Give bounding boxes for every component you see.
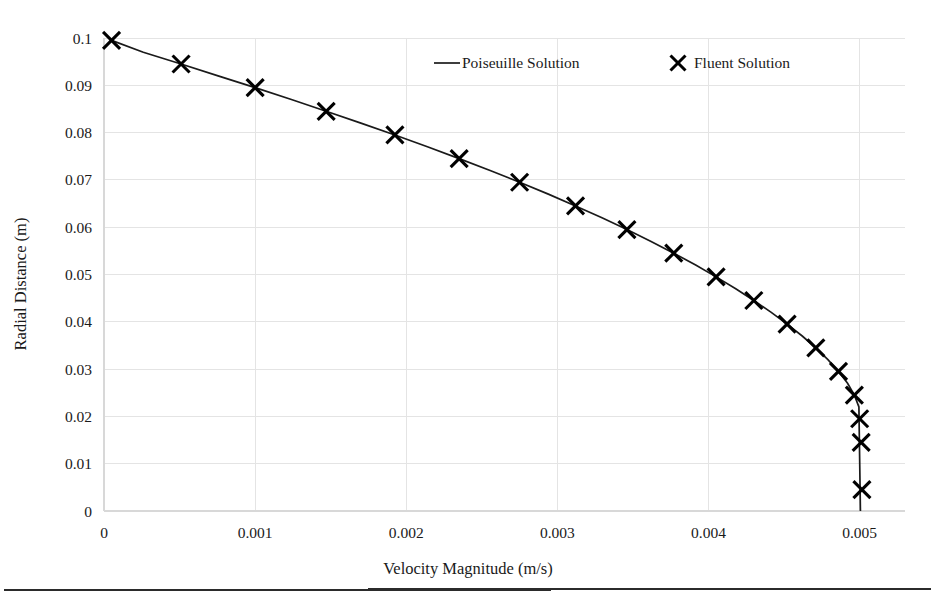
y-tick-label: 0.02	[65, 408, 92, 425]
y-tick-label: 0.08	[65, 124, 92, 141]
y-tick-label: 0.06	[65, 219, 92, 236]
x-tick-label: 0.004	[691, 524, 726, 541]
y-tick-label: 0.04	[65, 313, 92, 330]
x-axis-title: Velocity Magnitude (m/s)	[383, 559, 553, 578]
y-tick-label: 0.05	[65, 266, 92, 283]
x-tick-label: 0.001	[238, 524, 273, 541]
y-tick-label: 0.01	[65, 455, 92, 472]
y-tick-label: 0	[84, 503, 92, 520]
y-tick-label: 0.09	[65, 77, 92, 94]
poiseuille-velocity-profile-chart: 00.010.020.030.040.050.060.070.080.090.1…	[0, 0, 935, 598]
y-tick-label: 0.1	[73, 30, 92, 47]
x-tick-label: 0.002	[389, 524, 424, 541]
x-tick-label: 0.005	[842, 524, 877, 541]
x-tick-label: 0.003	[540, 524, 575, 541]
bottom-divider-rule	[4, 589, 931, 590]
legend-label-fluent: Fluent Solution	[694, 54, 790, 71]
y-tick-label: 0.07	[65, 171, 92, 188]
chart-figure: 00.010.020.030.040.050.060.070.080.090.1…	[0, 0, 935, 598]
x-tick-label: 0	[100, 524, 108, 541]
legend-label-poiseuille: Poiseuille Solution	[462, 54, 580, 71]
y-tick-label: 0.03	[65, 361, 92, 378]
y-axis-title: Radial Distance (m)	[11, 218, 30, 351]
chart-background	[0, 0, 935, 598]
